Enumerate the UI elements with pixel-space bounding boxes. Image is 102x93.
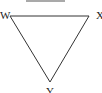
vertex-label-x: X — [96, 10, 102, 21]
vertex-label-w: W — [0, 10, 10, 21]
inverted-triangle — [10, 16, 89, 82]
vertex-label-y: Y — [46, 86, 54, 93]
triangle-diagram — [0, 0, 102, 93]
